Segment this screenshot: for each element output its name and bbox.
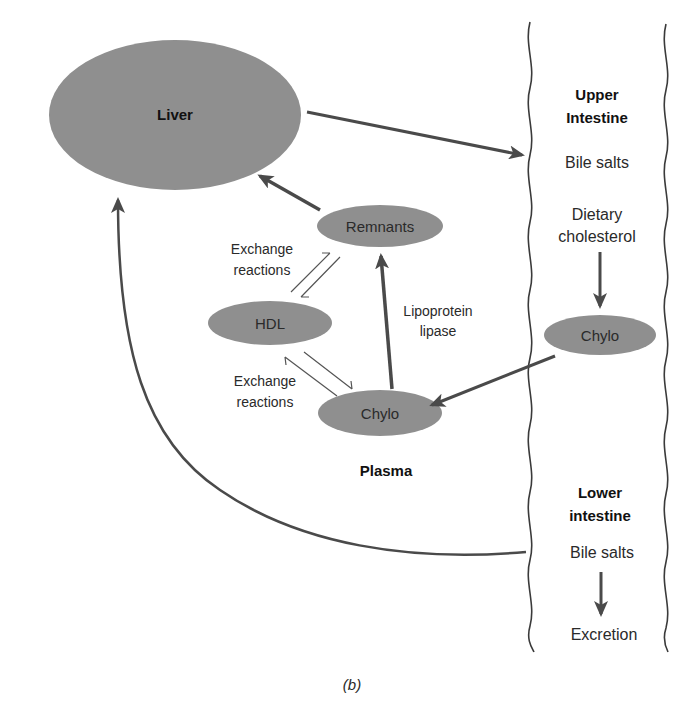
exchange-reactions-bottom-line1: Exchange bbox=[234, 373, 296, 389]
liver-node: Liver bbox=[49, 40, 301, 190]
chylo-intestine-node: Chylo bbox=[544, 315, 656, 355]
excretion-label: Excretion bbox=[571, 626, 638, 643]
exchange-reactions-bottom-line2: reactions bbox=[237, 394, 294, 410]
liver-to-intestine-arrow bbox=[307, 112, 522, 155]
exchange-arrows-top bbox=[291, 253, 340, 297]
chylo-to-remnants-arrow bbox=[381, 256, 392, 389]
lipoprotein-lipase-line2: lipase bbox=[420, 323, 457, 339]
chylo-intestine-label: Chylo bbox=[581, 327, 619, 344]
upper-bile-salts: Bile salts bbox=[565, 154, 629, 171]
lipoprotein-lipase-line1: Lipoprotein bbox=[403, 303, 472, 319]
dietary-cholesterol-line2: cholesterol bbox=[558, 228, 635, 245]
exchange-reactions-top-line2: reactions bbox=[234, 262, 291, 278]
intestine-left-wall bbox=[528, 22, 534, 652]
chylo-plasma-node: Chylo bbox=[318, 390, 442, 436]
plasma-label: Plasma bbox=[360, 462, 413, 479]
lower-intestine-title-line2: intestine bbox=[569, 507, 631, 524]
dietary-cholesterol-line1: Dietary bbox=[572, 206, 623, 223]
upper-intestine-title-line1: Upper bbox=[575, 86, 619, 103]
intestine-right-wall bbox=[664, 24, 668, 652]
lower-bile-salts: Bile salts bbox=[570, 544, 634, 561]
chylo-plasma-label: Chylo bbox=[361, 405, 399, 422]
exchange-reactions-top-line1: Exchange bbox=[231, 241, 293, 257]
intestinal-chylo-to-plasma-chylo-arrow bbox=[432, 356, 555, 405]
hdl-node: HDL bbox=[208, 301, 332, 345]
remnants-to-liver-arrow bbox=[260, 176, 320, 210]
lipoprotein-cholesterol-diagram: Liver Remnants HDL Chylo Chylo Exchange … bbox=[0, 0, 694, 708]
remnants-label: Remnants bbox=[346, 218, 414, 235]
liver-label: Liver bbox=[157, 106, 193, 123]
upper-intestine-title-line2: Intestine bbox=[566, 109, 628, 126]
remnants-node: Remnants bbox=[317, 205, 443, 247]
lower-intestine-title-line1: Lower bbox=[578, 484, 622, 501]
figure-caption: (b) bbox=[343, 676, 361, 693]
hdl-label: HDL bbox=[255, 315, 285, 332]
